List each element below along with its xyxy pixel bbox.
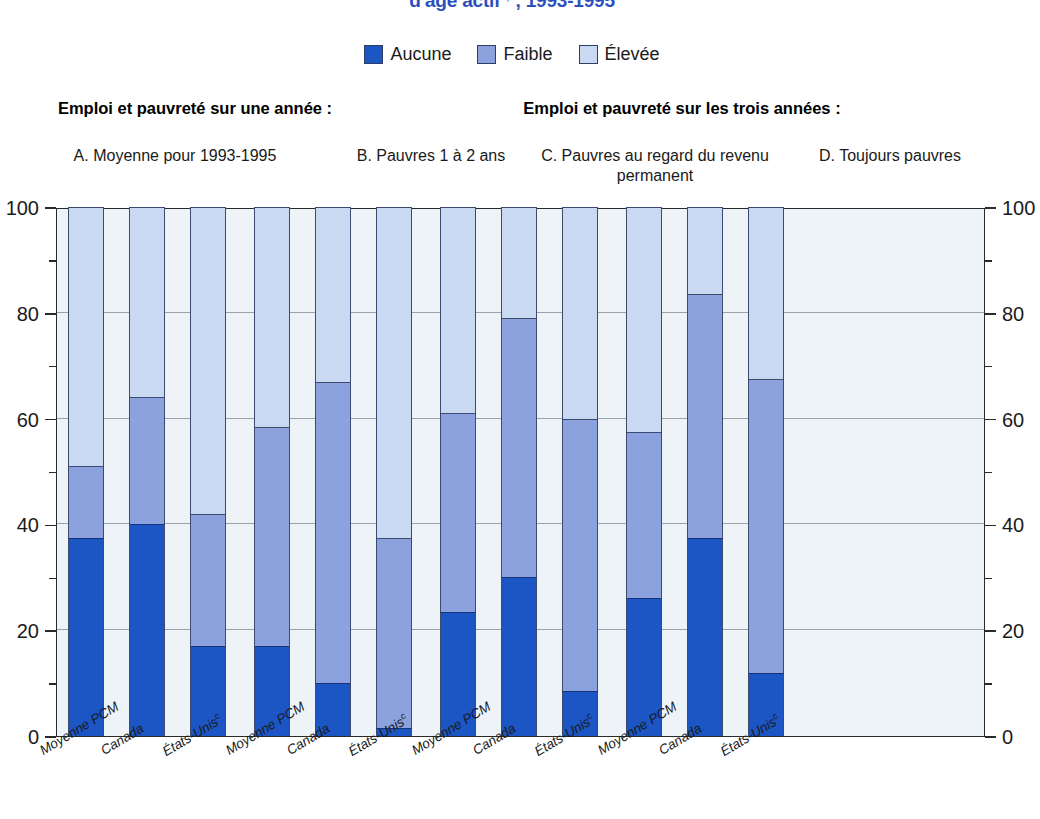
bar-segment-élevée[interactable] — [687, 207, 723, 294]
bar-segment-élevée[interactable] — [68, 207, 104, 466]
y-tick-major-60 — [45, 419, 56, 421]
y-tick-major-100 — [985, 207, 996, 209]
chart-title-text: d'âge actif — [409, 0, 500, 11]
bar-segment-faible[interactable] — [440, 413, 476, 611]
bar-segment-faible[interactable] — [501, 318, 537, 577]
bar-segment-faible[interactable] — [376, 538, 412, 728]
bar-stack[interactable] — [129, 207, 165, 736]
chart-legend: Aucune Faible Élevée — [0, 44, 1024, 65]
bar-segment-faible[interactable] — [315, 382, 351, 684]
y-tick-major-20 — [985, 630, 996, 632]
y-tick-label-40: 40 — [1002, 515, 1040, 535]
y-tick-label-20: 20 — [1002, 621, 1040, 641]
x-axis-labels: Moyenne PCMCanadaÉtats-UniscMoyenne PCMC… — [0, 737, 1024, 819]
panel-title-b: B. Pauvres 1 à 2 ans — [316, 146, 546, 166]
bar-stack[interactable] — [68, 207, 104, 736]
legend-swatch-icon-elevee — [579, 45, 598, 64]
bar-segment-faible[interactable] — [254, 427, 290, 647]
y-tick-label-80: 80 — [0, 304, 39, 324]
bar-segment-faible[interactable] — [626, 432, 662, 599]
y-tick-minor-10 — [985, 683, 992, 684]
legend-label-faible: Faible — [503, 44, 552, 65]
bar-stack[interactable] — [626, 207, 662, 736]
y-tick-label-100: 100 — [0, 198, 39, 218]
bar-stack[interactable] — [501, 207, 537, 736]
bar-segment-élevée[interactable] — [315, 207, 351, 382]
bar-segment-élevée[interactable] — [440, 207, 476, 413]
legend-item-faible: Faible — [477, 44, 552, 65]
panel-title-d: D. Toujours pauvres — [770, 146, 1010, 166]
bar-segment-élevée[interactable] — [626, 207, 662, 432]
bar-segment-faible[interactable] — [687, 294, 723, 537]
plot-area — [56, 208, 985, 737]
bar-segment-faible[interactable] — [129, 397, 165, 524]
bar-stack[interactable] — [687, 207, 723, 736]
y-tick-minor-90 — [49, 260, 56, 261]
bar-segment-aucune[interactable] — [687, 538, 723, 736]
panel-title-c: C. Pauvres au regard du revenu permanent — [540, 146, 770, 187]
bar-stack[interactable] — [315, 207, 351, 736]
y-tick-major-80 — [985, 313, 996, 315]
y-tick-minor-70 — [985, 366, 992, 367]
y-tick-minor-70 — [49, 366, 56, 367]
legend-label-aucune: Aucune — [390, 44, 451, 65]
bar-stack[interactable] — [748, 207, 784, 736]
bar-segment-faible[interactable] — [68, 466, 104, 537]
bar-stack[interactable] — [440, 207, 476, 736]
legend-swatch-icon-aucune — [364, 45, 383, 64]
y-tick-major-40 — [985, 525, 996, 527]
bar-segment-élevée[interactable] — [129, 207, 165, 397]
y-tick-major-100 — [45, 207, 56, 209]
y-tick-minor-30 — [985, 578, 992, 579]
bar-segment-élevée[interactable] — [562, 207, 598, 419]
y-tick-major-60 — [985, 419, 996, 421]
bar-segment-aucune[interactable] — [501, 577, 537, 736]
bar-segment-élevée[interactable] — [748, 207, 784, 379]
y-tick-label-20: 20 — [0, 621, 39, 641]
bar-segment-aucune[interactable] — [129, 524, 165, 736]
y-tick-label-60: 60 — [0, 410, 39, 430]
y-tick-label-40: 40 — [0, 515, 39, 535]
bar-segment-élevée[interactable] — [254, 207, 290, 427]
bar-segment-élevée[interactable] — [190, 207, 226, 514]
bar-segment-aucune[interactable] — [68, 538, 104, 736]
section-header-right: Emploi et pauvreté sur les trois années … — [352, 98, 1012, 119]
panel-title-a: A. Moyenne pour 1993-1995 — [20, 146, 330, 166]
y-tick-label-60: 60 — [1002, 410, 1040, 430]
y-tick-label-80: 80 — [1002, 304, 1040, 324]
y-tick-major-80 — [45, 313, 56, 315]
bar-segment-faible[interactable] — [190, 514, 226, 646]
chart-title-years: , 1993-1995 — [516, 0, 615, 11]
bar-segment-élevée[interactable] — [376, 207, 412, 538]
section-header-left: Emploi et pauvreté sur une année : — [30, 98, 360, 119]
legend-item-elevee: Élevée — [579, 44, 660, 65]
bar-stack[interactable] — [376, 207, 412, 736]
legend-item-aucune: Aucune — [364, 44, 451, 65]
bar-segment-faible[interactable] — [748, 379, 784, 673]
bar-segment-élevée[interactable] — [501, 207, 537, 318]
bars-layer — [57, 209, 984, 736]
legend-label-elevee: Élevée — [605, 44, 660, 65]
y-tick-minor-50 — [985, 472, 992, 473]
bar-stack[interactable] — [190, 207, 226, 736]
chart-title: d'âge actifa,b, 1993-1995 — [0, 0, 1024, 12]
y-tick-major-20 — [45, 630, 56, 632]
y-tick-major-40 — [45, 525, 56, 527]
bar-stack[interactable] — [562, 207, 598, 736]
chart-title-superscript: a,b — [500, 0, 515, 2]
legend-swatch-icon-faible — [477, 45, 496, 64]
y-tick-minor-10 — [49, 683, 56, 684]
bar-stack[interactable] — [254, 207, 290, 736]
y-tick-minor-50 — [49, 472, 56, 473]
y-axis-right: 020406080100 — [985, 208, 1024, 737]
y-tick-minor-30 — [49, 578, 56, 579]
bar-segment-faible[interactable] — [562, 419, 598, 691]
y-tick-minor-90 — [985, 260, 992, 261]
y-tick-label-100: 100 — [1002, 198, 1040, 218]
y-axis-left: 020406080100 — [0, 208, 56, 737]
